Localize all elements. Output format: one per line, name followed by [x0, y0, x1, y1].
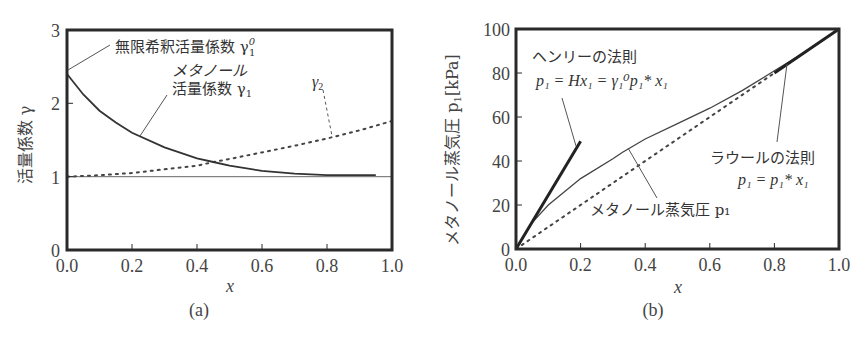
ytick-b-1: 20	[492, 196, 510, 216]
henry-law-equation: p₁ = Hx₁ = γ₁⁰p₁* x₁	[535, 72, 668, 90]
xtick-a-1: 0.2	[121, 256, 144, 276]
xtick-a-0: 0.0	[56, 256, 79, 276]
xtick-b-1: 0.2	[569, 255, 592, 275]
henry-law-line	[516, 141, 581, 249]
gamma2-curve	[67, 121, 392, 177]
ytick-a-1: 1	[51, 168, 60, 188]
x-axis-title-a: x	[225, 276, 234, 296]
ytick-a-2: 2	[51, 94, 60, 114]
y-axis-title-b: メタノール蒸気圧 p1[kPa]	[443, 54, 463, 245]
leader-gamma2	[323, 90, 332, 136]
ytick-b-3: 60	[492, 108, 510, 128]
raoult-law-thick-segment	[774, 29, 839, 73]
xtick-b-3: 0.6	[699, 255, 722, 275]
xtick-a-3: 0.6	[251, 256, 274, 276]
henry-law-title: ヘンリーの法則	[532, 48, 637, 66]
xtick-b-5: 1.0	[828, 255, 851, 275]
leader-vapor-pressure	[628, 148, 657, 198]
xtick-b-2: 0.4	[634, 255, 657, 275]
leader-raoult	[777, 64, 787, 142]
xtick-a-2: 0.4	[186, 256, 209, 276]
leader-meoh-gamma	[140, 95, 167, 136]
annotation-meoh-line1: メタノール	[172, 62, 248, 80]
raoult-law-equation: p₁ = p₁* x₁	[737, 171, 809, 189]
annotation-gamma2: γ2	[312, 73, 323, 92]
annotation-meoh-line2: 活量係数 γ1	[172, 80, 252, 99]
ytick-b-4: 80	[492, 64, 510, 84]
ytick-a-3: 3	[51, 21, 60, 41]
x-axis-title-b: x	[673, 277, 682, 297]
leader-inf-dilution	[68, 45, 110, 70]
caption-b: (b)	[643, 300, 664, 321]
xtick-b-4: 0.8	[763, 255, 786, 275]
panel-b: 0 20 40 60 80 100 0.0 0.2 0.4 0.6 0.8 1.…	[443, 20, 850, 321]
annotation-inf-dilution: 無限希釈活量係数 γ01	[115, 36, 256, 58]
raoult-law-title: ラウールの法則	[710, 149, 815, 167]
ytick-b-5: 100	[483, 20, 510, 40]
y-axis-title-a: 活量係数 γ	[16, 106, 35, 185]
leader-henry	[562, 98, 576, 146]
caption-a: (a)	[189, 300, 209, 321]
xtick-a-4: 0.8	[316, 256, 339, 276]
panel-a: 0 1 2 3 0.0 0.2 0.4 0.6 0.8 1.0 x 活量係数 γ…	[16, 21, 403, 321]
figure: 0 1 2 3 0.0 0.2 0.4 0.6 0.8 1.0 x 活量係数 γ…	[0, 0, 866, 342]
xtick-a-5: 1.0	[381, 256, 404, 276]
vapor-pressure-label: メタノール蒸気圧 p₁	[590, 201, 730, 219]
ytick-b-2: 40	[492, 152, 510, 172]
xtick-b-0: 0.0	[505, 255, 528, 275]
